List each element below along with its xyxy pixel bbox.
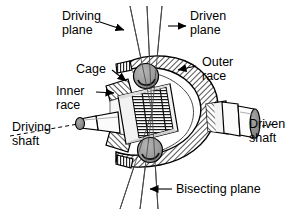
label-cage: Cage (76, 62, 106, 76)
label-driven-plane-line1: Driven (190, 9, 226, 23)
driving-shaft-end-face (76, 118, 85, 130)
label-inner-race-line2: race (56, 98, 80, 112)
diagram-canvas: Driving plane Driven plane Cage Outer ra… (0, 0, 302, 215)
inner-race-hatch (132, 87, 173, 138)
label-inner-race-line1: Inner (56, 84, 85, 98)
label-driving-plane-line1: Driving (62, 9, 101, 23)
driving-shaft-barrel (96, 112, 120, 133)
label-driven-shaft-line1: Driven (249, 117, 285, 131)
outer-race-lip-top (116, 61, 132, 73)
label-driven-shaft-line2: shaft (249, 131, 277, 145)
leader-driving-plane (100, 22, 124, 30)
driven-shaft-flange (222, 102, 240, 136)
cv-joint-diagram: Driving plane Driven plane Cage Outer ra… (0, 0, 302, 215)
label-driven-plane-line2: plane (190, 23, 221, 37)
label-driving-shaft-line2: shaft (12, 134, 40, 148)
driving-shaft (76, 112, 121, 133)
label-driving-plane-line2: plane (62, 23, 93, 37)
label-outer-race-line1: Outer (202, 55, 233, 69)
label-bisecting-plane: Bisecting plane (176, 182, 261, 196)
label-outer-race-line2: race (202, 69, 226, 83)
label-driving-shaft-line1: Driving (12, 120, 51, 134)
ball-bearing-bottom (138, 138, 163, 163)
